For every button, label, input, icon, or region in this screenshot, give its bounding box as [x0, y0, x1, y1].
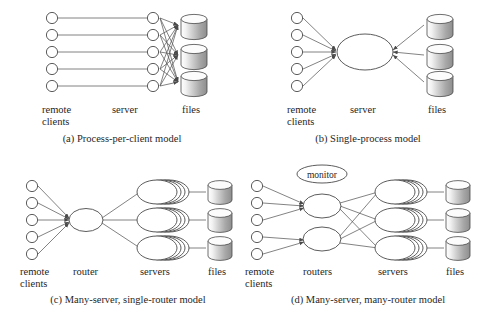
panel-a-label-server: server	[112, 104, 138, 115]
panel-c-label-files: files	[208, 266, 226, 277]
file-cylinder	[427, 71, 453, 96]
panel-d-label-remote: remote	[245, 266, 274, 277]
panel-b-label-remote: remote	[287, 104, 316, 115]
file-cylinder	[181, 44, 207, 69]
panel-b-server-process	[337, 34, 393, 70]
panel-d-label-files: files	[446, 266, 464, 277]
file-cylinder	[208, 209, 232, 233]
panel-a-label-clients: clients	[42, 116, 69, 127]
file-cylinder	[208, 181, 232, 205]
panel-a-file-cylinders	[181, 14, 207, 96]
panel-d-server-stacks	[375, 180, 427, 260]
panel-a-caption: (a) Process-per-client model	[63, 133, 182, 145]
figure-server-architecture-models: remote clients server files (a) Process-…	[0, 0, 490, 324]
server-stack	[137, 236, 189, 260]
panel-c-label-clients: clients	[20, 278, 47, 289]
panel-c-label-remote: remote	[20, 266, 49, 277]
file-cylinder	[446, 181, 470, 205]
panel-c-file-cylinders	[208, 181, 232, 261]
panel-d-monitor: monitor	[297, 165, 347, 183]
panel-d-label-clients: clients	[245, 278, 272, 289]
panel-c-caption: (c) Many-server, single-router model	[50, 294, 205, 306]
panel-b-caption: (b) Single-process model	[315, 133, 421, 145]
server-stack	[375, 236, 427, 260]
file-cylinder	[208, 237, 232, 261]
server-stack	[137, 208, 189, 232]
panel-a-label-remote: remote	[42, 104, 71, 115]
panel-d-file-cylinders	[446, 181, 470, 261]
server-stack	[375, 180, 427, 204]
panel-d-caption: (d) Many-server, many-router model	[291, 294, 445, 306]
panel-b-file-cylinders	[427, 14, 453, 96]
router-node	[303, 227, 341, 251]
panel-d-label-routers: routers	[303, 266, 332, 277]
panel-d-monitor-label: monitor	[307, 170, 338, 180]
server-stack	[375, 208, 427, 232]
panel-b-label-clients: clients	[287, 116, 314, 127]
panel-b-label-server: server	[350, 104, 376, 115]
file-cylinder	[181, 14, 207, 39]
panel-a-label-files: files	[182, 104, 200, 115]
server-stack	[137, 180, 189, 204]
file-cylinder	[427, 14, 453, 39]
router-node	[303, 194, 341, 218]
file-cylinder	[446, 209, 470, 233]
panel-c-label-router: router	[73, 266, 99, 277]
diagram-canvas: remote clients server files (a) Process-…	[0, 0, 490, 324]
panel-b-label-files: files	[428, 104, 446, 115]
panel-d-label-servers: servers	[378, 266, 408, 277]
panel-c-label-servers: servers	[140, 266, 170, 277]
file-cylinder	[427, 44, 453, 69]
panel-c-router	[69, 209, 103, 232]
panel-c-server-stacks	[137, 180, 189, 260]
file-cylinder	[181, 71, 207, 96]
file-cylinder	[446, 237, 470, 261]
